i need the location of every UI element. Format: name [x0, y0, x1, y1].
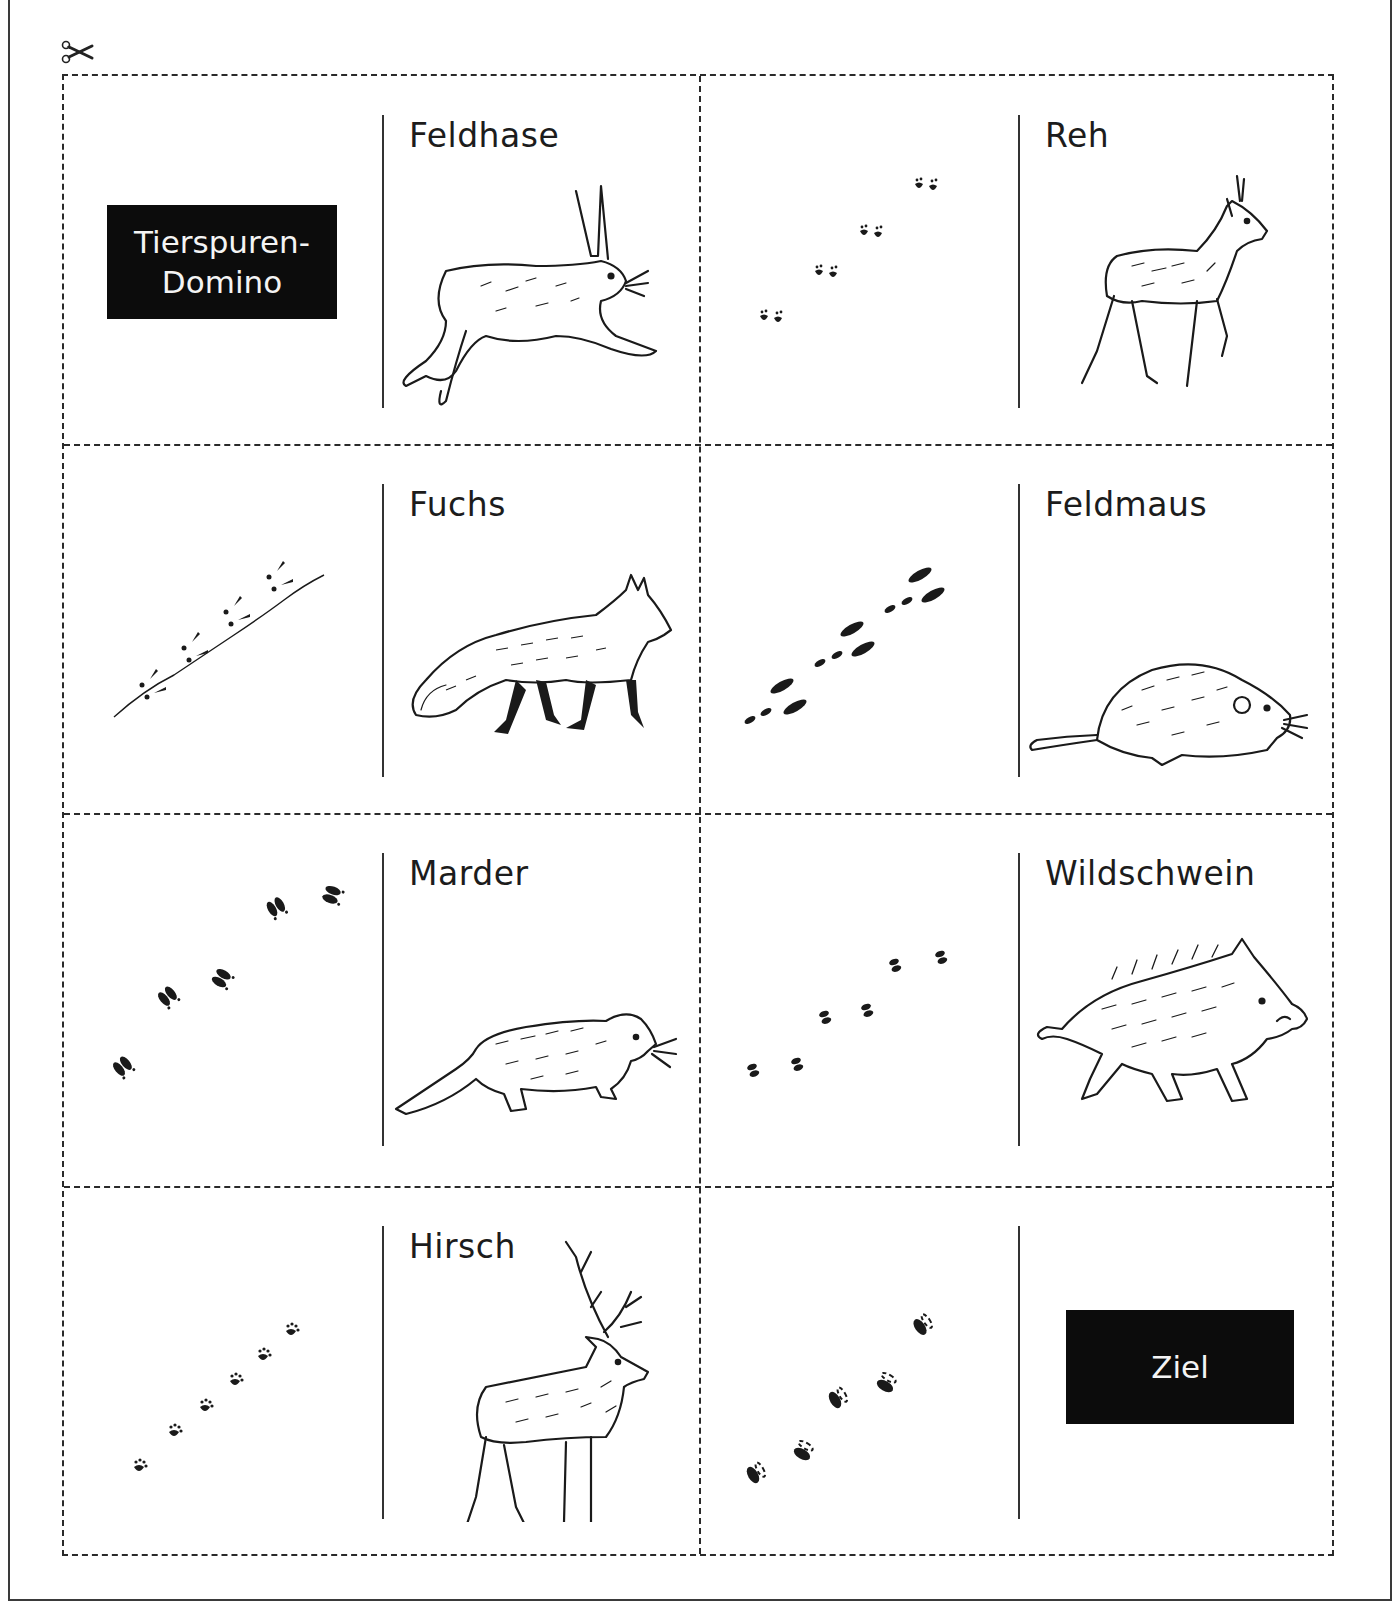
animal-name: Wildschwein: [1045, 854, 1255, 893]
vole-icon: [1022, 540, 1322, 790]
animal-name: Feldmaus: [1045, 485, 1207, 524]
bird-tracks-icon: [84, 485, 374, 785]
animal-name: Fuchs: [409, 485, 506, 524]
domino-card-wildschwein[interactable]: Wildschwein: [700, 814, 1336, 1184]
animal-name: Feldhase: [409, 116, 559, 155]
hare-tracks-icon: [720, 485, 1010, 785]
card-divider: [1018, 1226, 1020, 1519]
card-divider: [1018, 853, 1020, 1146]
card-divider: [1018, 115, 1020, 408]
domino-grid: Tierspuren- Domino Feldhase: [62, 74, 1334, 1556]
domino-card-hirsch[interactable]: Hirsch: [64, 1187, 700, 1557]
domino-card-fuchs[interactable]: Fuchs: [64, 445, 700, 815]
paw-tracks-icon: [84, 1227, 374, 1527]
scissors-icon: [60, 40, 96, 64]
goal-label: Ziel: [1151, 1347, 1209, 1387]
title-box: Tierspuren- Domino: [107, 205, 337, 319]
marten-icon: [386, 909, 686, 1159]
domino-card-feldmaus[interactable]: Feldmaus: [700, 445, 1336, 815]
hoof-tracks-icon: [720, 854, 1010, 1154]
domino-card-feldhase[interactable]: Tierspuren- Domino Feldhase: [64, 76, 700, 446]
goal-box: Ziel: [1066, 1310, 1294, 1424]
title-line-2: Domino: [162, 262, 282, 302]
roe-deer-icon: [1022, 171, 1322, 421]
fox-icon: [386, 540, 686, 790]
card-divider: [382, 484, 384, 777]
hoof-tracks-icon: [84, 854, 374, 1154]
card-divider: [382, 1226, 384, 1519]
wild-boar-icon: [1022, 909, 1322, 1159]
paw-tracks-icon: [720, 116, 1010, 416]
title-line-1: Tierspuren-: [134, 222, 310, 262]
domino-card-marder[interactable]: Marder: [64, 814, 700, 1184]
hoof-tracks-icon: [720, 1227, 1010, 1527]
animal-name: Marder: [409, 854, 529, 893]
domino-card-reh[interactable]: Reh: [700, 76, 1336, 446]
card-divider: [1018, 484, 1020, 777]
hare-icon: [386, 171, 686, 421]
red-deer-icon: [386, 1202, 686, 1522]
animal-name: Reh: [1045, 116, 1109, 155]
domino-card-ziel[interactable]: Ziel: [700, 1187, 1336, 1557]
card-divider: [382, 853, 384, 1146]
card-divider: [382, 115, 384, 408]
